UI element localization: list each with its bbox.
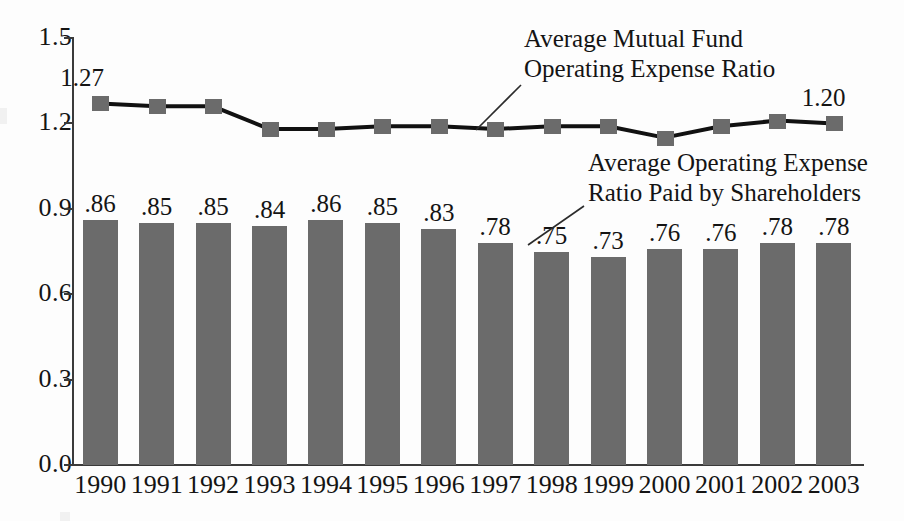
bar-1993[interactable] <box>252 226 287 465</box>
bar-1997[interactable] <box>478 243 513 465</box>
bar-1994[interactable] <box>308 220 343 465</box>
bar-2001[interactable] <box>703 249 738 465</box>
bar-1999[interactable] <box>591 257 626 465</box>
line-marker-1990[interactable] <box>92 96 109 111</box>
bar-annotation-line-1: Average Operating Expense <box>588 148 868 178</box>
line-marker-1997[interactable] <box>487 122 504 137</box>
chart-container: 0.00.30.60.91.21.5 .86.85.85.84.86.85.83… <box>0 0 904 521</box>
line-marker-1999[interactable] <box>600 119 617 134</box>
line-marker-1998[interactable] <box>544 119 561 134</box>
bar-series-layer: .86.85.85.84.86.85.83.78.75.73.76.76.78.… <box>72 38 862 465</box>
y-tick-label: 0.0 <box>10 451 72 477</box>
y-tick-label: 0.6 <box>10 280 72 306</box>
line-marker-1991[interactable] <box>149 99 166 114</box>
bar-2000[interactable] <box>647 249 682 465</box>
bar-2002[interactable] <box>760 243 795 465</box>
line-marker-1992[interactable] <box>205 99 222 114</box>
line-annotation-line-1: Average Mutual Fund <box>524 24 775 54</box>
line-first-value-label: 1.27 <box>60 65 104 90</box>
bar-annotation-line-2: Ratio Paid by Shareholders <box>588 178 868 208</box>
line-marker-1995[interactable] <box>374 119 391 134</box>
line-marker-1993[interactable] <box>262 122 279 137</box>
line-annotation-line-2: Operating Expense Ratio <box>524 54 775 84</box>
bar-1992[interactable] <box>196 223 231 465</box>
y-tick-label: 1.5 <box>10 24 72 50</box>
bar-1998[interactable] <box>534 252 569 466</box>
bar-2003[interactable] <box>816 243 851 465</box>
x-tick-label-2003: 2003 <box>800 470 868 500</box>
bar-1990[interactable] <box>83 220 118 465</box>
y-tick-label: 1.2 <box>10 109 72 135</box>
line-series-annotation: Average Mutual Fund Operating Expense Ra… <box>524 24 775 84</box>
bar-value-label-2003: .78 <box>794 214 874 239</box>
line-marker-2000[interactable] <box>657 131 674 146</box>
line-marker-2003[interactable] <box>826 116 843 131</box>
bar-series-annotation: Average Operating Expense Ratio Paid by … <box>588 148 868 208</box>
line-marker-1996[interactable] <box>431 119 448 134</box>
bar-1996[interactable] <box>421 229 456 465</box>
bar-1991[interactable] <box>139 223 174 465</box>
y-tick-label: 0.3 <box>10 366 72 392</box>
line-last-value-label: 1.20 <box>802 85 846 110</box>
line-marker-2002[interactable] <box>769 114 786 129</box>
line-marker-1994[interactable] <box>318 122 335 137</box>
bar-1995[interactable] <box>365 223 400 465</box>
line-marker-2001[interactable] <box>713 119 730 134</box>
